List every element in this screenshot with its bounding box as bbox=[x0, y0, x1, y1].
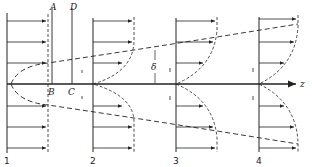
label-A: A bbox=[49, 2, 57, 12]
label-z: z bbox=[299, 79, 305, 89]
boundary-layer-edge-upper bbox=[11, 24, 298, 84]
velocity-profile-diagram: A D B C δ z 1 2 3 4 bbox=[0, 0, 312, 167]
station-1-profile bbox=[7, 13, 48, 153]
label-station-2: 2 bbox=[90, 156, 96, 166]
label-C: C bbox=[68, 87, 75, 97]
label-D: D bbox=[69, 2, 77, 12]
label-B: B bbox=[47, 87, 55, 97]
label-delta: δ bbox=[151, 62, 156, 72]
label-station-1: 1 bbox=[4, 156, 10, 166]
label-station-3: 3 bbox=[173, 156, 179, 166]
label-station-4: 4 bbox=[256, 156, 262, 166]
